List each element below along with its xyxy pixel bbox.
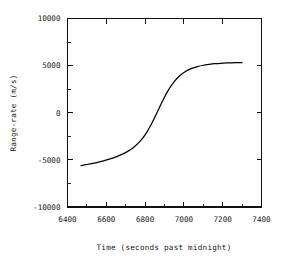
- x-tick-label: 6800: [136, 215, 155, 224]
- x-tick-label: 7200: [214, 215, 233, 224]
- y-axis-major-ticks: [68, 19, 262, 208]
- y-axis-tick-labels: -10000-50000500010000: [33, 14, 61, 212]
- y-tick-label: 5000: [42, 61, 61, 70]
- plot-canvas: -10000-50000500010000 640066006800700072…: [0, 0, 285, 262]
- x-tick-label: 6400: [58, 215, 77, 224]
- x-tick-label: 6600: [97, 215, 116, 224]
- data-series-group: [81, 63, 242, 166]
- y-tick-label: 0: [56, 109, 61, 118]
- plot-frame: [68, 19, 262, 208]
- chart-figure: -10000-50000500010000 640066006800700072…: [0, 0, 285, 262]
- x-axis-tick-labels: 640066006800700072007400: [58, 215, 271, 224]
- x-axis-major-ticks: [68, 19, 262, 208]
- data-curve-range-rate: [81, 63, 242, 166]
- x-tick-label: 7400: [252, 215, 271, 224]
- y-axis-title: Range-rate (m/s): [9, 74, 18, 151]
- x-tick-label: 7000: [175, 215, 194, 224]
- y-tick-label: -5000: [38, 156, 61, 165]
- y-tick-label: 10000: [38, 14, 61, 23]
- x-axis-title: Time (seconds past midnight): [96, 243, 231, 252]
- y-tick-label: -10000: [33, 203, 61, 212]
